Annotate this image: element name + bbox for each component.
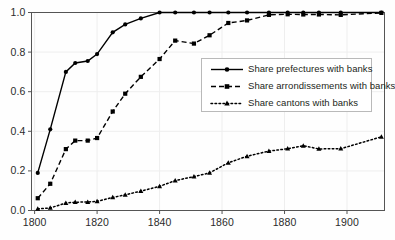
data-point-marker (379, 134, 384, 139)
y-axis-tick-label: 0.6 (0, 85, 26, 97)
data-point-marker (95, 136, 99, 140)
y-axis-tick-label: 1.0 (0, 6, 26, 18)
data-point-marker (339, 13, 343, 17)
legend-item-label: Share prefectures with banks (248, 63, 372, 74)
y-axis-tick-label: 0.4 (0, 125, 26, 137)
line-chart-plot (0, 0, 395, 240)
data-point-marker (245, 10, 249, 14)
legend-item-label: Share arrondissements with banks (248, 80, 395, 91)
data-point-marker (36, 171, 40, 175)
y-axis-tick-label: 0.0 (0, 204, 26, 216)
legend-key-marker (225, 67, 230, 72)
chart-figure: 0.00.20.40.60.81.0 180018201840186018801… (0, 0, 395, 240)
x-axis-tick-label: 1800 (13, 216, 57, 228)
data-point-marker (111, 30, 115, 34)
data-point-marker (139, 75, 143, 79)
y-axis-tick-label: 0.8 (0, 46, 26, 58)
data-point-marker (123, 92, 127, 96)
x-axis-tick-label: 1840 (138, 216, 182, 228)
data-point-marker (86, 59, 90, 63)
data-point-marker (157, 57, 161, 61)
chart-legend: Share prefectures with banks Share arron… (201, 58, 372, 112)
data-point-marker (226, 21, 230, 25)
data-point-marker (123, 22, 127, 26)
data-point-marker (301, 12, 305, 16)
data-point-marker (317, 12, 321, 16)
data-point-marker (95, 52, 99, 56)
data-point-marker (286, 12, 290, 16)
data-point-marker (379, 11, 383, 15)
data-point-marker (157, 10, 161, 14)
data-point-marker (48, 182, 52, 186)
x-axis-tick-label: 1900 (325, 216, 369, 228)
data-point-marker (207, 10, 211, 14)
legend-key-marker (225, 84, 230, 89)
x-axis-tick-label: 1860 (200, 216, 244, 228)
x-axis-tick-label: 1820 (75, 216, 119, 228)
data-point-marker (192, 41, 196, 45)
legend-item-label: Share cantons with banks (248, 97, 358, 108)
legend-item: Share arrondissements with banks (202, 78, 373, 95)
data-point-marker (123, 192, 128, 197)
axis-ticks (28, 13, 347, 215)
data-point-marker (86, 139, 90, 143)
data-point-marker (111, 109, 115, 113)
data-point-marker (267, 13, 271, 17)
data-point-marker (64, 147, 68, 151)
data-point-marker (207, 33, 211, 37)
solid-circle-key (209, 61, 245, 78)
data-point-marker (64, 70, 68, 74)
dashed-square-key (209, 78, 245, 95)
y-axis-tick-label: 0.2 (0, 164, 26, 176)
series-2 (35, 134, 384, 211)
data-point-marker (63, 200, 68, 205)
data-point-marker (139, 16, 143, 20)
data-point-marker (73, 61, 77, 65)
data-point-marker (173, 178, 178, 183)
data-point-marker (173, 39, 177, 43)
x-axis-tick-label: 1880 (263, 216, 307, 228)
data-point-marker (173, 10, 177, 14)
data-point-marker (338, 146, 343, 151)
data-point-marker (73, 139, 77, 143)
data-point-marker (48, 127, 52, 131)
legend-item: Share prefectures with banks (202, 61, 373, 78)
data-point-marker (245, 18, 249, 22)
legend-item: Share cantons with banks (202, 95, 373, 112)
data-point-marker (138, 189, 143, 194)
data-point-marker (192, 10, 196, 14)
data-point-marker (36, 196, 40, 200)
data-point-marker (226, 10, 230, 14)
dotted-triangle-key (209, 95, 245, 112)
